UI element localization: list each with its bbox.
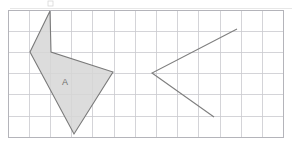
shape-label-a: A <box>62 77 68 87</box>
shape-chevron <box>152 29 237 117</box>
top-scan-mark-icon <box>48 1 53 6</box>
figure-canvas: A <box>0 0 301 145</box>
scan-artifacts <box>10 1 292 9</box>
shape-labels-layer: A <box>62 77 68 87</box>
shapes-layer <box>30 11 237 134</box>
geometry-diagram: A <box>0 0 301 145</box>
